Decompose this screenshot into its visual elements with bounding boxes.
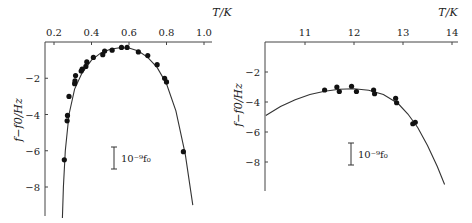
y-tick-label: −6 (245, 127, 260, 138)
x-tick-label: 0.2 (46, 27, 62, 38)
data-point (337, 89, 342, 94)
data-point (136, 49, 141, 54)
data-point (110, 48, 115, 53)
data-point (119, 45, 124, 50)
data-point (72, 78, 77, 83)
data-point (66, 94, 71, 99)
data-point (65, 113, 70, 118)
data-point (349, 84, 354, 89)
data-point (145, 53, 150, 58)
fit-curve (266, 89, 445, 185)
data-point (393, 96, 398, 101)
data-point (125, 45, 130, 50)
chart-right: 11121314−2−4−6−8T/Kf−f0/Hz10⁻⁹f₀ (232, 6, 458, 191)
data-point (73, 73, 78, 78)
scale-bar-label: 10⁻⁹f₀ (358, 149, 388, 160)
y-axis-label: f−f0/Hz (12, 98, 25, 143)
data-point (164, 79, 169, 84)
data-point (84, 59, 89, 64)
y-tick-label: −4 (25, 110, 40, 121)
data-point (91, 55, 96, 60)
y-axis-label: f−f0/Hz (232, 83, 245, 128)
data-point (102, 48, 107, 53)
data-point (83, 64, 88, 69)
data-point (354, 89, 359, 94)
y-tick-label: −4 (245, 97, 260, 108)
x-tick-label: 14 (446, 27, 459, 38)
data-point (181, 149, 186, 154)
data-point (372, 91, 377, 96)
figure: 0.20.40.60.81.0−2−4−6−8T/Kf−f0/Hz10⁻⁹f₀ … (0, 0, 472, 223)
x-axis-label: T/K (212, 6, 232, 19)
y-tick-label: −2 (25, 73, 40, 84)
data-point (394, 100, 399, 105)
data-point (62, 157, 67, 162)
data-point (334, 84, 339, 89)
scale-bar: 10⁻⁹f₀ (111, 147, 151, 169)
x-tick-label: 12 (348, 27, 361, 38)
x-axis-label: T/K (438, 6, 458, 19)
data-point (155, 62, 160, 67)
y-tick-label: −8 (245, 157, 260, 168)
scale-bar: 10⁻⁹f₀ (348, 143, 388, 165)
chart-left: 0.20.40.60.81.0−2−4−6−8T/Kf−f0/Hz10⁻⁹f₀ (12, 6, 232, 218)
data-point (413, 120, 418, 125)
x-tick-label: 0.6 (121, 27, 137, 38)
scale-bar-label: 10⁻⁹f₀ (121, 153, 151, 164)
y-tick-label: −6 (25, 146, 40, 157)
x-tick-label: 0.4 (84, 27, 100, 38)
y-tick-label: −2 (245, 67, 260, 78)
data-point (322, 87, 327, 92)
x-tick-label: 11 (299, 27, 312, 38)
y-tick-label: −8 (25, 182, 40, 193)
data-point (65, 118, 70, 123)
x-tick-label: 1.0 (196, 27, 212, 38)
x-tick-label: 13 (397, 27, 410, 38)
x-tick-label: 0.8 (159, 27, 175, 38)
